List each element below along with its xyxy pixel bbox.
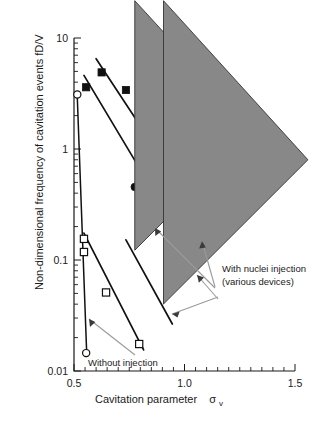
chart-svg: 0.010.1110 0.51.01.5 Non-dimensional fre… <box>0 0 325 423</box>
marker-filled-squares-upper <box>122 86 129 93</box>
x-tick-label: 1.0 <box>177 377 192 389</box>
y-tick-label: 1 <box>62 143 68 155</box>
x-tick-label: 0.5 <box>67 377 82 389</box>
marker-filled-squares-upper <box>98 69 105 76</box>
y-tick-label: 0.1 <box>53 254 68 266</box>
y-axis-title: Non-dimensional frequency of cavitation … <box>33 34 45 290</box>
marker-without-injection-open-circles <box>74 91 81 98</box>
marker-open-squares-steep <box>102 289 109 296</box>
marker-open-squares-steep <box>80 235 87 242</box>
x-tick-label: 1.5 <box>288 377 303 389</box>
annotation-with-nuclei-line2: (various devices) <box>222 276 294 287</box>
marker-without-injection-open-circles <box>83 349 90 356</box>
marker-open-squares-steep <box>80 248 87 255</box>
marker-filled-squares-upper <box>83 84 90 91</box>
y-tick-label: 0.01 <box>48 365 69 377</box>
x-axis-title-symbol: σ <box>209 393 216 405</box>
annotation-without-injection: Without injection <box>88 357 158 368</box>
annotation-with-nuclei-line1: With nuclei injection <box>222 263 306 274</box>
x-axis-title-subscript: v <box>219 399 223 408</box>
cavitation-frequency-chart: 0.010.1110 0.51.01.5 Non-dimensional fre… <box>0 0 325 423</box>
marker-open-squares-steep <box>136 340 143 347</box>
y-tick-label: 10 <box>56 32 68 44</box>
x-axis-title-text: Cavitation parameter <box>95 393 197 405</box>
